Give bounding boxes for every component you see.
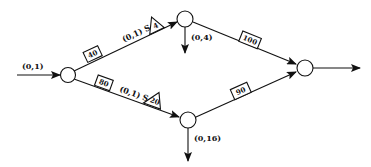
- node-top: [177, 11, 193, 27]
- outflow-bottom: (0,16): [188, 128, 221, 161]
- outflow-label: (0,16): [194, 133, 221, 143]
- edge-top-sink: 100: [193, 22, 296, 64]
- capacity-box: 100: [239, 31, 262, 49]
- edge-source-top: 40 (0,1) S 4: [74, 14, 177, 71]
- node-source: [61, 68, 76, 83]
- outflow-label: (0,4): [191, 32, 213, 42]
- outflow-top: (0,4): [185, 27, 213, 53]
- input-label: (0,1): [22, 61, 44, 71]
- edge-bottom-sink: 90: [196, 72, 296, 117]
- flow-diagram: (0,1) 40 (0,1) S 4 80 (0: [0, 0, 371, 167]
- node-sink: [297, 60, 313, 76]
- capacity-box: 40: [83, 46, 102, 63]
- diagram-svg: (0,1) 40 (0,1) S 4 80 (0: [0, 0, 371, 167]
- input-arrow: (0,1): [17, 61, 60, 75]
- edge-source-bottom: 80 (0,1) S 20: [74, 75, 179, 117]
- capacity-box: 90: [230, 82, 251, 99]
- capacity-box: 80: [94, 75, 113, 91]
- node-bottom: [180, 112, 196, 128]
